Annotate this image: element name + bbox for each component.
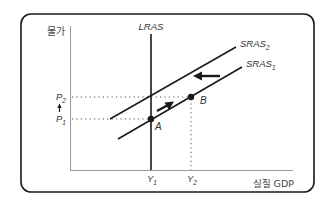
ad-as-diagram: 물가 실질 GDP LRAS SRAS2 SRAS1 A B P2 P1 — [0, 0, 325, 205]
point-b — [188, 94, 194, 100]
movement-arrow-icon — [157, 102, 174, 112]
shift-left-arrow-icon — [193, 72, 220, 81]
sras2-label: SRAS2 — [240, 38, 270, 51]
point-a — [148, 116, 154, 122]
price-up-arrow-icon — [57, 104, 61, 113]
y1-label: Y1 — [147, 173, 157, 186]
point-b-label: B — [200, 95, 207, 106]
y-axis-label: 물가 — [47, 26, 65, 37]
p2-label: P2 — [56, 91, 66, 104]
sras2-curve — [110, 47, 236, 119]
x-axis-label: 실질 GDP — [253, 178, 295, 189]
lras-label: LRAS — [139, 21, 164, 32]
point-a-label: A — [154, 121, 162, 132]
p1-label: P1 — [56, 113, 66, 126]
y2-label: Y2 — [187, 173, 197, 186]
sras1-label: SRAS1 — [246, 58, 276, 71]
